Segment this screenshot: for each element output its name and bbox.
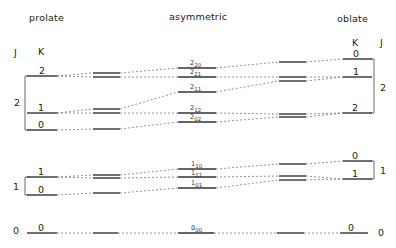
oblate-J-0: 0 bbox=[378, 228, 384, 238]
oblate-K-0: 0 bbox=[348, 223, 354, 233]
prolate-K-1: 1 bbox=[38, 103, 44, 113]
prolate-K-0: 0 bbox=[38, 185, 44, 195]
prolate-K-0: 0 bbox=[38, 223, 44, 233]
asym-label-2-11: 211 bbox=[190, 84, 201, 93]
asym-label-2-02: 202 bbox=[190, 114, 201, 123]
prolate-K-2: 2 bbox=[39, 66, 45, 76]
asymmetric-header: asymmetric bbox=[169, 12, 227, 22]
prolate-bracket-J1 bbox=[25, 177, 29, 195]
oblate-J-1: 1 bbox=[380, 166, 386, 176]
asym-label-2-21: 221 bbox=[190, 69, 201, 78]
right-J-label: J bbox=[380, 38, 383, 48]
prolate-J-2: 2 bbox=[14, 98, 20, 108]
prolate-J-1: 1 bbox=[13, 182, 19, 192]
oblate-header: oblate bbox=[337, 14, 368, 24]
correlation-diagram-lines bbox=[0, 0, 396, 248]
asym-label-1-11: 111 bbox=[191, 170, 202, 179]
oblate-J-2: 2 bbox=[380, 83, 386, 93]
right-K-label: K bbox=[352, 38, 358, 48]
oblate-K-1: 1 bbox=[353, 67, 359, 77]
prolate-K-0: 0 bbox=[38, 120, 44, 130]
oblate-K-0: 0 bbox=[352, 151, 358, 161]
left-J-label: J bbox=[14, 48, 17, 58]
prolate-K-1: 1 bbox=[38, 167, 44, 177]
oblate-K-2: 2 bbox=[352, 103, 358, 113]
asym-label-0-00: 000 bbox=[191, 225, 202, 234]
oblate-K-1: 1 bbox=[352, 169, 358, 179]
left-K-label: K bbox=[38, 47, 44, 57]
asym-label-1-01: 101 bbox=[191, 180, 202, 189]
oblate-bracket-J1 bbox=[370, 161, 374, 179]
prolate-bracket-J2 bbox=[25, 76, 29, 130]
oblate-K-0: 0 bbox=[353, 49, 359, 59]
prolate-J-0: 0 bbox=[13, 226, 19, 236]
prolate-header: prolate bbox=[29, 13, 64, 23]
oblate-bracket-J2 bbox=[370, 59, 374, 113]
